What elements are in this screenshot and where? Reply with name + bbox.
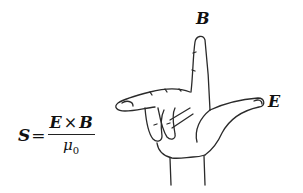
right-hand-illustration	[0, 0, 303, 193]
permeability-symbol: μ	[63, 136, 73, 154]
cross-product-operator: ×	[64, 113, 77, 132]
magnetic-field-symbol: B	[79, 113, 93, 132]
wrist	[170, 156, 205, 185]
b-field-label: B	[196, 11, 210, 27]
denominator: μ0	[63, 135, 79, 156]
numerator: E×B	[48, 113, 95, 135]
e-field-label: E	[268, 94, 280, 110]
poynting-formula: S = E×B μ0	[18, 113, 95, 156]
thumb	[205, 98, 264, 155]
electric-field-symbol: E	[50, 113, 62, 132]
fraction: E×B μ0	[48, 113, 95, 156]
index-finger	[191, 36, 210, 110]
poynting-vector-symbol: S	[18, 125, 30, 145]
equals-sign: =	[31, 125, 45, 145]
permeability-subscript: 0	[73, 145, 79, 156]
palm	[157, 143, 205, 158]
middle-finger	[116, 89, 190, 111]
